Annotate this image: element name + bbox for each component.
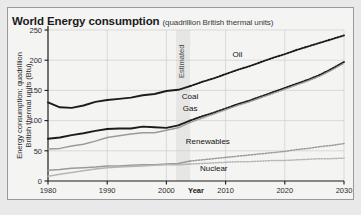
y-axis-title-line2: British thermal units (Btu): [24, 63, 33, 148]
axis-titles: Energy consumption; quadrillionBritish t…: [15, 52, 204, 195]
series-label-nuclear: Nuclear: [200, 164, 228, 173]
estimated-annotation: Estimated: [177, 45, 186, 78]
y-tick-label: 250: [29, 26, 42, 35]
x-tick-label: 2030: [336, 186, 353, 195]
chart-figure: World Energy consumption(quadrillion Bri…: [0, 0, 361, 215]
x-tick-label: 1990: [99, 186, 116, 195]
series-labels: OilCoalGasRenewablesNuclear: [182, 50, 243, 173]
x-tick-label: 2010: [217, 186, 234, 195]
x-tick-label: 2020: [276, 186, 293, 195]
chart-annotations: Estimated: [177, 45, 186, 78]
x-tick-label: 2000: [158, 186, 175, 195]
energy-consumption-line-chart: 050100150200250198019902000201020202030 …: [0, 0, 361, 215]
chart-plot-area: 050100150200250198019902000201020202030 …: [0, 0, 361, 215]
series-line-renewables: [48, 161, 190, 170]
series-projection-oil: [190, 35, 344, 86]
series-label-renewables: Renewables: [186, 137, 230, 146]
x-tick-label: 1980: [40, 186, 57, 195]
series-projection-coal: [190, 62, 344, 121]
y-tick-label: 0: [38, 177, 42, 186]
y-axis-title-line1: Energy consumption; quadrillion: [15, 52, 24, 159]
series-line-oil: [48, 86, 190, 108]
x-axis-title: Year: [188, 186, 204, 195]
series-label-gas: Gas: [183, 104, 198, 113]
y-tick-label: 50: [34, 147, 42, 156]
series-label-oil: Oil: [233, 50, 243, 59]
series-label-coal: Coal: [182, 92, 199, 101]
